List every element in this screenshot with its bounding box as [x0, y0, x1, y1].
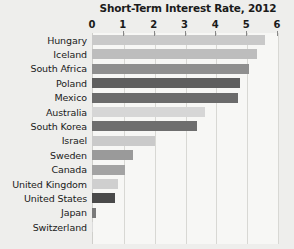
bar — [92, 121, 197, 131]
bar-category-label: Mexico — [0, 92, 87, 103]
bar-row: South Africa — [0, 62, 294, 76]
chart-title: Short-Term Interest Rate, 2012 — [88, 2, 288, 14]
bar-rows: HungaryIcelandSouth AfricaPolandMexicoAu… — [0, 33, 294, 234]
x-axis-tickmark — [246, 31, 247, 36]
bar-category-label: South Korea — [0, 121, 87, 132]
bar-row: United States — [0, 191, 294, 205]
bar — [92, 78, 240, 88]
bar-row: South Korea — [0, 119, 294, 133]
bar-category-label: Switzerland — [0, 222, 87, 233]
x-axis-tick-label: 0 — [89, 19, 96, 30]
x-axis-tick-label: 5 — [243, 19, 250, 30]
bar — [92, 193, 115, 203]
chart-root: Short-Term Interest Rate, 2012 0123456 H… — [0, 0, 294, 249]
bar-category-label: Australia — [0, 107, 87, 118]
bar — [92, 93, 238, 103]
bar — [92, 107, 205, 117]
x-axis-tickmark — [277, 31, 278, 36]
bar-row: Switzerland — [0, 220, 294, 234]
x-axis-tick-label: 6 — [274, 19, 281, 30]
bar-category-label: Canada — [0, 164, 87, 175]
bar-row: Israel — [0, 134, 294, 148]
bar — [92, 179, 118, 189]
bar-category-label: Israel — [0, 135, 87, 146]
x-axis-tickmark — [185, 31, 186, 36]
bar-row: Hungary — [0, 33, 294, 47]
bar-row: Mexico — [0, 91, 294, 105]
x-axis-tick-label: 2 — [150, 19, 157, 30]
bar-row: Japan — [0, 206, 294, 220]
bar-category-label: Poland — [0, 78, 87, 89]
bar — [92, 150, 133, 160]
bar — [92, 49, 257, 59]
x-axis-tick-labels: 0123456 — [0, 19, 294, 33]
x-axis-tickmark — [123, 31, 124, 36]
bar — [92, 136, 155, 146]
x-axis-tick-label: 4 — [212, 19, 219, 30]
bar-category-label: Hungary — [0, 35, 87, 46]
bar — [92, 208, 96, 218]
bar-row: Poland — [0, 76, 294, 90]
bar-row: Sweden — [0, 148, 294, 162]
bar-category-label: Iceland — [0, 49, 87, 60]
bar — [92, 35, 265, 45]
x-axis-tickmark — [215, 31, 216, 36]
bar-row: United Kingdom — [0, 177, 294, 191]
bar — [92, 222, 93, 232]
bar-category-label: Sweden — [0, 150, 87, 161]
bar-category-label: United States — [0, 193, 87, 204]
bar-category-label: Japan — [0, 207, 87, 218]
bar-row: Canada — [0, 163, 294, 177]
bar-category-label: United Kingdom — [0, 179, 87, 190]
bar-category-label: South Africa — [0, 63, 87, 74]
bar-row: Iceland — [0, 47, 294, 61]
x-axis-tickmark — [154, 31, 155, 36]
x-axis-tick-label: 3 — [181, 19, 188, 30]
bar — [92, 64, 249, 74]
x-axis-tick-label: 1 — [119, 19, 126, 30]
bar — [92, 165, 125, 175]
bottom-strip — [0, 244, 294, 249]
bar-row: Australia — [0, 105, 294, 119]
